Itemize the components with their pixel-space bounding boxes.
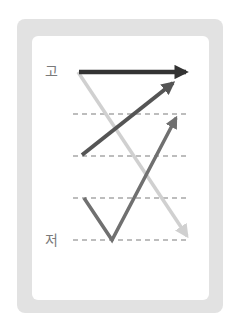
fall-rise-contour-arrow xyxy=(84,118,176,240)
pitch-contour-diagram xyxy=(0,0,244,331)
dashed-level-lines xyxy=(73,114,190,240)
